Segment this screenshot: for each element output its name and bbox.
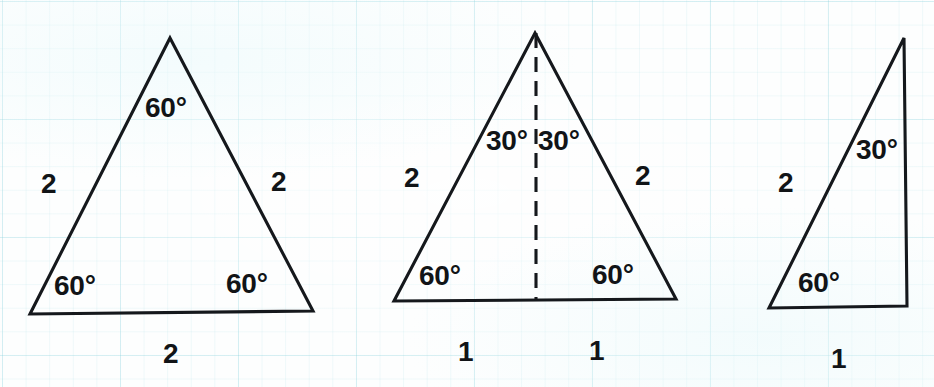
right-triangle-shape — [0, 0, 934, 387]
t3-base-left-angle-label: 60° — [798, 269, 840, 297]
t3-base-length-label: 1 — [831, 345, 846, 373]
diagram-canvas: 60° 60° 60° 2 2 2 30° 30° 60° 60° 2 2 1 … — [0, 0, 934, 387]
t3-hypotenuse-length-label: 2 — [778, 169, 793, 197]
t3-apex-angle-label: 30° — [856, 136, 898, 164]
triangle-figures-group: 60° 60° 60° 2 2 2 30° 30° 60° 60° 2 2 1 … — [0, 0, 934, 387]
